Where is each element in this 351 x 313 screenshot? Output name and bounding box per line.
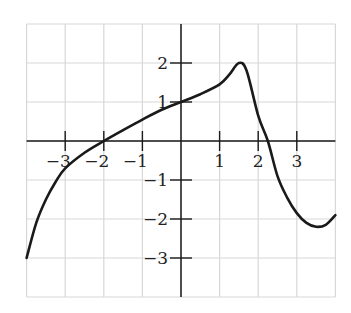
y-tick-label: −1	[143, 170, 168, 190]
tick-labels: −3−2−1123−3−2−112	[46, 53, 303, 268]
y-tick-label: 2	[157, 53, 168, 73]
x-tick-label: −2	[84, 151, 109, 171]
y-tick-label: −3	[143, 248, 168, 268]
x-tick-label: 1	[214, 151, 225, 171]
function-graph: −3−2−1123−3−2−112	[0, 0, 351, 313]
x-tick-label: 3	[291, 151, 302, 171]
x-tick-label: −1	[123, 151, 148, 171]
y-tick-label: −2	[143, 209, 168, 229]
x-tick-label: 2	[253, 151, 264, 171]
